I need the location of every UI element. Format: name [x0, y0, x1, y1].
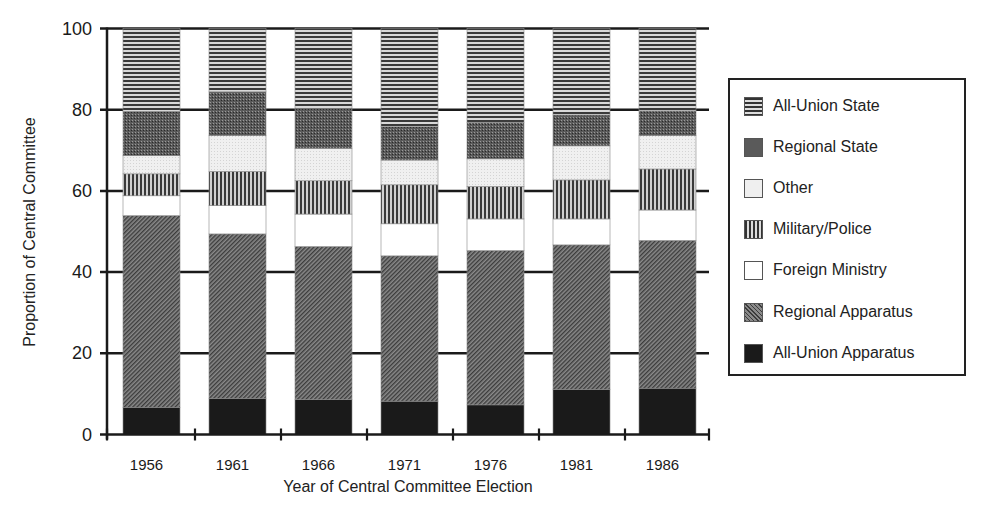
horizontal-lines-swatch-icon: [744, 97, 763, 116]
bar-1961: [209, 29, 266, 435]
x-tick-label: 1976: [474, 456, 507, 473]
bar-segment: [553, 115, 610, 146]
bar-segment: [553, 180, 610, 219]
bar-1981: [553, 29, 610, 435]
bar-segment: [553, 146, 610, 180]
bar-segment: [639, 29, 696, 111]
legend-item-foreign-ministry: Foreign Ministry: [744, 260, 887, 280]
bar-segment: [467, 186, 524, 218]
bar-segment: [553, 389, 610, 434]
bar-segment: [381, 401, 438, 434]
bar-segment: [123, 174, 180, 196]
bar-segment: [467, 122, 524, 159]
legend-item-regional-state: Regional State: [744, 137, 878, 157]
bar-segment: [209, 398, 266, 434]
bar-segment: [467, 405, 524, 435]
dark-stipple-swatch-icon: [744, 138, 763, 157]
y-tick-labels: 020406080100: [62, 19, 92, 445]
bar-segment: [209, 136, 266, 172]
vertical-lines-swatch-icon: [744, 220, 763, 239]
y-tick-label: 60: [72, 181, 92, 201]
bar-1986: [639, 29, 696, 435]
bar-segment: [381, 185, 438, 224]
bar-segment: [123, 196, 180, 216]
y-tick-label: 20: [72, 343, 92, 363]
bar-segment: [209, 171, 266, 205]
legend-item-other: Other: [744, 178, 813, 198]
bar-segment: [381, 127, 438, 160]
bar-1956: [123, 29, 180, 435]
bar-segment: [639, 210, 696, 240]
y-tick-label: 100: [62, 19, 92, 39]
bar-segment: [467, 29, 524, 123]
y-axis-label: Proportion of Central Committee: [21, 117, 39, 346]
y-tick-label: 0: [82, 425, 92, 445]
bar-1976: [467, 29, 524, 435]
legend-item-regional-apparatus: Regional Apparatus: [744, 302, 913, 322]
bar-segment: [209, 206, 266, 234]
bar-segment: [639, 240, 696, 388]
bar-segment: [295, 181, 352, 214]
bar-segment: [553, 29, 610, 115]
bar-segment: [553, 245, 610, 390]
bar-1966: [295, 29, 352, 435]
bar-segment: [639, 169, 696, 210]
bar-segment: [123, 111, 180, 155]
x-axis-label: Year of Central Committee Election: [283, 478, 532, 496]
bar-segment: [295, 247, 352, 400]
bar-1971: [381, 29, 438, 435]
bar-segment: [381, 256, 438, 401]
bar-segment: [123, 407, 180, 434]
bar-segment: [295, 29, 352, 109]
legend-item-military-police: Military/Police: [744, 219, 872, 239]
x-tick-label: 1981: [560, 456, 593, 473]
bar-segment: [123, 156, 180, 174]
legend: All-Union State Regional State Other Mil…: [728, 78, 966, 376]
legend-item-all-union-state: All-Union State: [744, 96, 880, 116]
x-tick-label: 1966: [302, 456, 335, 473]
bar-segment: [381, 160, 438, 185]
legend-item-all-union-apparatus: All-Union Apparatus: [744, 343, 914, 363]
bar-segment: [467, 219, 524, 251]
bar-segment: [209, 92, 266, 136]
bar-segment: [123, 216, 180, 408]
bar-segment: [467, 251, 524, 405]
bar-segment: [639, 388, 696, 434]
bar-segment: [381, 29, 438, 127]
x-tick-labels: 1956196119661971197619811986: [130, 456, 679, 473]
bars: [123, 29, 696, 435]
bar-segment: [123, 29, 180, 112]
diagonal-hatch-swatch-icon: [744, 303, 763, 322]
bar-segment: [295, 214, 352, 246]
bar-segment: [209, 29, 266, 92]
bar-segment: [295, 400, 352, 435]
bar-segment: [295, 148, 352, 180]
y-tick-label: 80: [72, 100, 92, 120]
bar-segment: [381, 224, 438, 256]
solid-black-swatch-icon: [744, 344, 763, 363]
bar-segment: [639, 136, 696, 169]
white-swatch-icon: [744, 261, 763, 280]
x-tick-label: 1961: [216, 456, 249, 473]
bar-segment: [639, 111, 696, 136]
bar-segment: [553, 219, 610, 245]
x-tick-label: 1986: [646, 456, 679, 473]
bar-segment: [295, 108, 352, 148]
x-tick-label: 1956: [130, 456, 163, 473]
bar-segment: [467, 159, 524, 187]
y-tick-label: 40: [72, 262, 92, 282]
bar-segment: [209, 234, 266, 398]
x-tick-label: 1971: [388, 456, 421, 473]
light-stipple-swatch-icon: [744, 179, 763, 198]
